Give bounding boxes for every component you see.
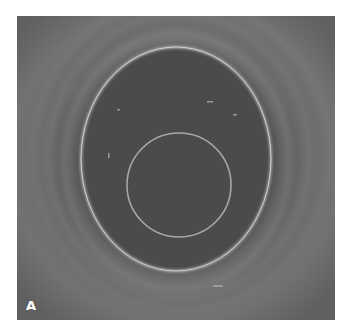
ultrasound-image: A [17,16,335,320]
ultrasound-rings [17,16,335,320]
panel-label: A [26,298,36,313]
